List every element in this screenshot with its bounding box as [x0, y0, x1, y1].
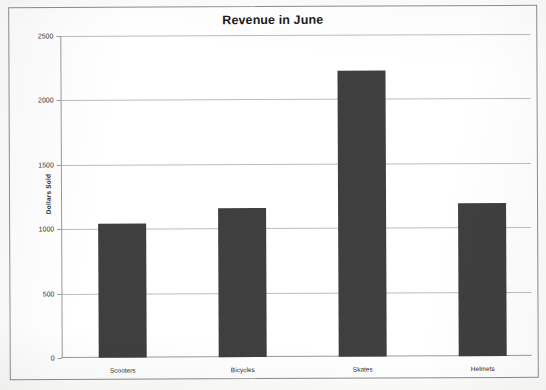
y-tick-label: 2000: [38, 97, 54, 104]
bar-helmets[interactable]: Helmets: [458, 203, 507, 356]
y-tick-label: 0: [51, 354, 55, 361]
bar-bicycles[interactable]: Bicycles: [218, 208, 267, 357]
chart-title: Revenue in June: [9, 12, 536, 28]
x-tick-label-skates: Skates: [315, 365, 411, 372]
y-axis-title: Dollars Sold: [45, 173, 52, 213]
scanned-page: Revenue in June Dollars Sold 2500 2000 1…: [0, 0, 546, 390]
y-tick-mark: [58, 358, 62, 359]
bar-scooters[interactable]: Scooters: [98, 224, 147, 358]
x-tick-label-bicycles: Bicycles: [195, 366, 291, 373]
y-tick-label: 500: [43, 290, 55, 297]
y-tick-label: 1000: [39, 226, 55, 233]
chart-frame: Revenue in June Dollars Sold 2500 2000 1…: [8, 5, 539, 380]
y-tick-label: 1500: [38, 161, 54, 168]
x-tick-label-scooters: Scooters: [75, 366, 171, 373]
x-tick-label-helmets: Helmets: [435, 365, 531, 372]
bar-skates[interactable]: Skates: [337, 71, 386, 357]
plot-area: 2500 2000 1500 1000 500 0: [60, 34, 531, 358]
y-tick-label: 2500: [38, 32, 54, 39]
